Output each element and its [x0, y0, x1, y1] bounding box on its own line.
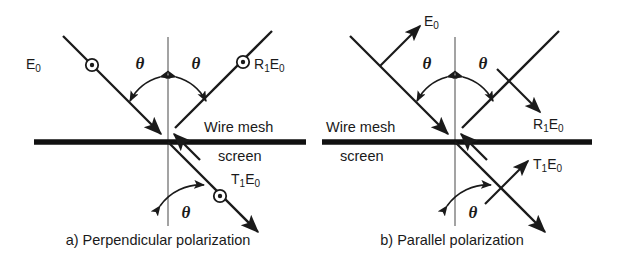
incidence-angle-arc-b — [417, 77, 447, 101]
reflected-ray-a-head — [174, 134, 200, 160]
reflection-angle-arc-a — [176, 77, 206, 101]
polarization-arrow-transmitted-b — [485, 161, 528, 204]
polarization-arrow-incident-b — [380, 26, 420, 66]
figure-canvas: E0 R1E0 T1E0 θ θ θ Wire mesh screen a) P… — [0, 0, 624, 267]
reflection-angle-label-b: θ — [479, 54, 488, 73]
reflected-ray-b-tail — [462, 31, 559, 128]
panel-b: E0 R1E0 T1E0 θ θ θ Wire mesh screen b) P… — [322, 13, 592, 248]
reflection-angle-arc-b — [463, 77, 493, 101]
wire-mesh-screen-label-line1-b: Wire mesh — [326, 119, 395, 135]
incidence-angle-label-b: θ — [423, 54, 432, 73]
reflection-angle-label-a: θ — [192, 54, 201, 73]
reflected-ray-a-tail — [175, 31, 272, 128]
incident-field-label-a: E0 — [26, 56, 41, 74]
circle-dot-icon-transmitted-a — [214, 190, 226, 202]
wire-mesh-screen-label-line2-a: screen — [218, 148, 262, 164]
panel-b-caption: b) Parallel polarization — [380, 232, 523, 248]
panel-a: E0 R1E0 T1E0 θ θ θ Wire mesh screen a) P… — [26, 31, 306, 248]
incident-ray-a — [63, 36, 161, 134]
polarization-arrow-reflected-b — [497, 69, 540, 112]
wire-mesh-screen-label-line2-b: screen — [340, 148, 384, 164]
circle-dot-icon-reflected-a — [237, 56, 249, 68]
panel-a-caption: a) Perpendicular polarization — [66, 232, 251, 248]
reflected-field-label-a: R1E0 — [254, 56, 285, 74]
incident-field-label-b: E0 — [424, 13, 439, 31]
transmitted-field-label-b: T1E0 — [533, 156, 562, 174]
polarization-figure: E0 R1E0 T1E0 θ θ θ Wire mesh screen a) P… — [0, 0, 624, 267]
transmission-angle-label-b: θ — [469, 203, 478, 222]
wire-mesh-screen-label-line1-a: Wire mesh — [204, 119, 273, 135]
circle-dot-icon-incident-a — [86, 59, 98, 71]
transmitted-field-label-a: T1E0 — [231, 171, 260, 189]
transmission-angle-label-a: θ — [182, 203, 191, 222]
incidence-angle-arc-a — [130, 77, 160, 101]
reflected-field-label-b: R1E0 — [533, 116, 564, 134]
incidence-angle-label-a: θ — [136, 54, 145, 73]
reflected-ray-b-head — [461, 134, 487, 160]
